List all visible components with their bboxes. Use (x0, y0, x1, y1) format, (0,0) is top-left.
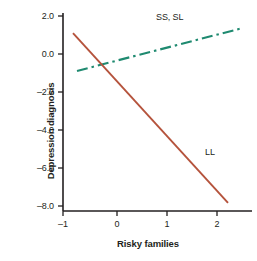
x-tick-label-neg1: –1 (58, 219, 68, 229)
x-tick-label-2: 2 (215, 219, 220, 229)
axis-lines (63, 13, 252, 211)
y-tick-label-2: 2.0 (34, 11, 54, 21)
y-tick-label-0: 0.0 (34, 49, 54, 59)
series-label-ss-sl: SS, SL (156, 12, 183, 22)
series-label-ll: LL (205, 147, 215, 157)
depression-diagnosis-chart: 2.0 0.0 –2.0 –4.0 –6.0 –8.0 –1 0 1 2 Dep… (0, 0, 257, 261)
x-tick-label-0: 0 (115, 219, 120, 229)
y-tick-label-neg8: –8.0 (29, 201, 54, 211)
x-tick-label-1: 1 (165, 219, 170, 229)
x-axis-title: Risky families (117, 238, 179, 249)
y-axis-title: Depression diagnosis (45, 82, 56, 179)
series-line-ll (73, 33, 228, 203)
